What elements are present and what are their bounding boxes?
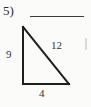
- worksheet-problem: 5) 9 12 4: [0, 0, 91, 107]
- label-vertical-leg: 9: [6, 48, 12, 60]
- label-hypotenuse: 12: [51, 39, 62, 51]
- label-horizontal-leg: 4: [39, 87, 45, 99]
- clipped-edge-mark: [85, 38, 87, 50]
- right-triangle-figure: [0, 0, 91, 107]
- triangle-hypotenuse: [23, 27, 69, 84]
